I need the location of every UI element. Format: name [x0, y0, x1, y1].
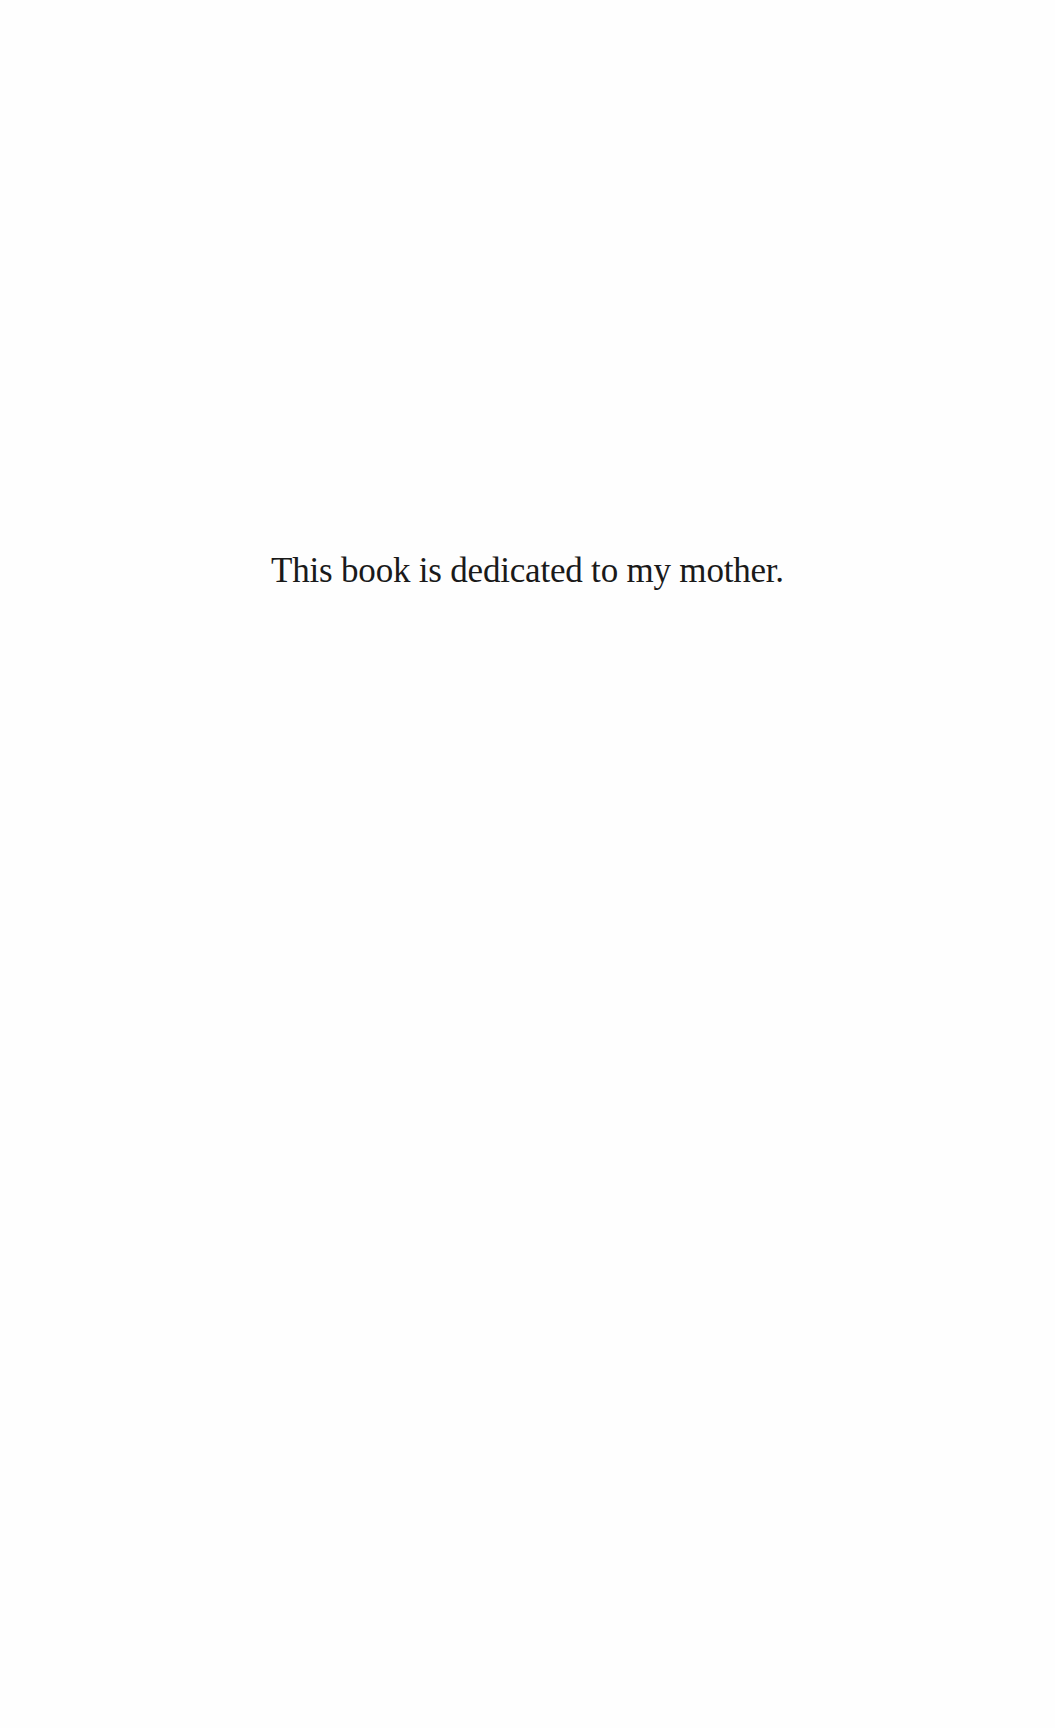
dedication-text: This book is dedicated to my mother. [0, 547, 1055, 595]
book-page: This book is dedicated to my mother. [0, 0, 1055, 1728]
